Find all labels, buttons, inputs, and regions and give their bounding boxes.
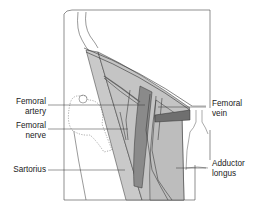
label-adductor-longus-line1: Adductor	[212, 159, 245, 169]
label-femoral-artery-line1: Femoral	[6, 97, 46, 107]
label-femoral-vein-line2: vein	[212, 109, 242, 119]
label-femoral-artery-line2: artery	[6, 107, 46, 117]
label-femoral-artery: Femoral artery	[6, 97, 46, 116]
label-sartorius-line1: Sartorius	[6, 165, 46, 175]
label-femoral-vein: Femoral vein	[212, 99, 242, 118]
label-femoral-nerve: Femoral nerve	[6, 121, 46, 140]
label-femoral-nerve-line2: nerve	[6, 131, 46, 141]
label-adductor-longus-line2: longus	[212, 169, 245, 179]
label-femoral-vein-line1: Femoral	[212, 99, 242, 109]
label-femoral-nerve-line1: Femoral	[6, 121, 46, 131]
label-sartorius: Sartorius	[6, 165, 46, 175]
label-adductor-longus: Adductor longus	[212, 159, 245, 178]
